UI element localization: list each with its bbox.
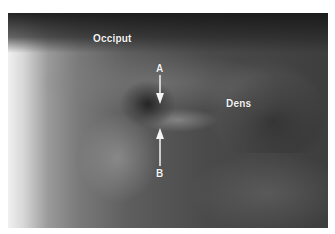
label-arrow-b: B xyxy=(156,168,163,179)
label-occiput: Occiput xyxy=(93,33,132,44)
label-arrow-a: A xyxy=(156,63,163,74)
arrow-down-icon xyxy=(154,75,166,105)
arrow-up-icon xyxy=(154,128,166,166)
radiograph-image: Occiput Dens A B xyxy=(8,13,328,228)
label-dens: Dens xyxy=(226,98,251,109)
